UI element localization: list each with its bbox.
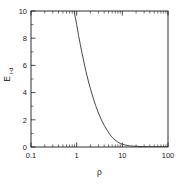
y-axis-title-subscript: i-d — [8, 68, 14, 74]
y-tick-label-6: 6 — [23, 61, 27, 70]
y-tick-label-4: 4 — [23, 88, 27, 97]
y-tick-label-2: 2 — [23, 116, 27, 125]
y-axis-title-main: E — [2, 76, 12, 82]
x-tick-label-10: 10 — [118, 151, 126, 160]
x-tick-label-100: 100 — [162, 151, 175, 160]
y-tick-label-8: 8 — [23, 34, 27, 43]
x-tick-label-1: 1 — [75, 151, 79, 160]
plot-canvas: 10 8 6 4 2 0 0.1 1 10 100 ρ E i-d — [0, 0, 180, 187]
x-axis-title: ρ — [97, 167, 102, 177]
x-tick-label-0point1: 0.1 — [26, 151, 36, 160]
chart-figure: 10 8 6 4 2 0 0.1 1 10 100 ρ E i-d — [0, 0, 180, 187]
y-tick-label-10: 10 — [19, 7, 27, 16]
